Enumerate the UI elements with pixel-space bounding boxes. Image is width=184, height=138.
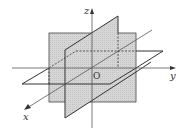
- z-axis-label: z: [83, 5, 90, 16]
- x-axis-label: x: [23, 111, 29, 122]
- y-axis-label: y: [169, 70, 176, 81]
- origin-label: O: [93, 71, 100, 81]
- x-axis-arrow-icon: [24, 104, 31, 110]
- coordinate-planes-diagram: z y x O: [0, 0, 184, 138]
- xy-plane-edge: [22, 68, 49, 84]
- xz-plane: [65, 16, 118, 118]
- z-axis-arrow-icon: [90, 8, 94, 14]
- xy-plane-edge: [136, 51, 163, 68]
